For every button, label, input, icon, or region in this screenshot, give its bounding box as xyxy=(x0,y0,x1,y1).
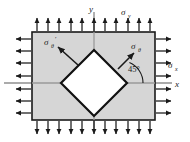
sigma-y-label: σ y xyxy=(121,7,131,19)
load-arrows-left xyxy=(16,39,31,113)
x-axis-label: x xyxy=(174,79,179,89)
sigma-x-symbol: σ xyxy=(168,60,173,70)
load-arrows-bottom xyxy=(37,121,150,134)
y-axis-label: y xyxy=(88,4,93,14)
stress-element-figure: y x σ y σ x σ θ σ θ ′ xyxy=(0,0,190,142)
stress-diagram-svg: y x σ y σ x σ θ σ θ ′ xyxy=(0,0,190,142)
sigma-theta-prime-subscript: θ xyxy=(51,43,54,49)
load-arrows-right xyxy=(156,39,171,113)
sigma-theta-subscript: θ xyxy=(138,47,141,53)
angle-45-label: 45° xyxy=(128,64,140,74)
sigma-x-subscript: x xyxy=(174,66,178,72)
sigma-theta-prime-symbol: σ xyxy=(44,37,49,47)
sigma-x-label: σ x xyxy=(168,60,178,72)
sigma-y-subscript: y xyxy=(127,13,131,19)
sigma-theta-symbol: σ xyxy=(131,41,136,51)
load-arrows-top xyxy=(37,18,150,31)
sigma-y-symbol: σ xyxy=(121,7,126,17)
